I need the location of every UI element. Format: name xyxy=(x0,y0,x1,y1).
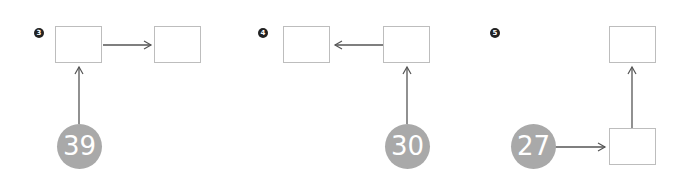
step-marker-3: 3 xyxy=(34,28,44,38)
step-marker-5: 5 xyxy=(490,28,500,38)
arrows-layer xyxy=(0,0,687,193)
number-circle: 39 xyxy=(57,124,102,169)
step-marker-4: 4 xyxy=(258,28,268,38)
blank-box-left[interactable] xyxy=(55,26,102,63)
blank-box-right[interactable] xyxy=(383,26,430,63)
number-circle: 30 xyxy=(385,124,430,169)
blank-box-left[interactable] xyxy=(283,26,330,63)
number-circle: 27 xyxy=(511,124,556,169)
blank-box-top[interactable] xyxy=(609,26,656,63)
blank-box-bottom[interactable] xyxy=(609,128,656,165)
blank-box-right[interactable] xyxy=(154,26,201,63)
